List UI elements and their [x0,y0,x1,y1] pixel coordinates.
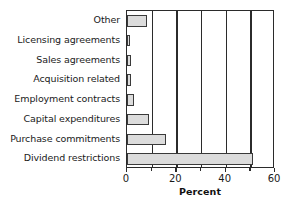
x-tick [225,168,226,172]
x-tick-minor [249,168,250,171]
x-tick [126,168,127,172]
category-label: Employment contracts [14,89,120,109]
bars-layer [127,11,273,167]
bar [127,55,131,66]
bar [127,153,253,164]
x-tick-label: 20 [160,173,190,184]
category-axis: Other Licensing agreements Sales agreeme… [0,10,123,168]
plot-area [126,10,274,168]
category-label: Other [94,10,120,30]
bar-chart: Other Licensing agreements Sales agreeme… [0,0,293,204]
x-tick-minor [151,168,152,171]
bar [127,35,130,46]
x-tick-label: 60 [259,173,289,184]
bar [127,15,147,26]
x-tick [274,168,275,172]
category-label: Capital expenditures [24,109,120,129]
bar [127,134,166,145]
category-label: Acquisition related [33,69,120,89]
bar [127,94,134,105]
category-label: Purchase commitments [10,129,120,149]
category-label: Dividend restrictions [24,148,120,168]
bar [127,74,131,85]
x-tick-label: 40 [210,173,240,184]
x-tick [175,168,176,172]
category-label: Sales agreements [36,50,120,70]
x-tick-minor [200,168,201,171]
bar [127,114,149,125]
x-axis-title: Percent [126,186,274,197]
category-label: Licensing agreements [17,30,120,50]
x-tick-label: 0 [111,173,141,184]
